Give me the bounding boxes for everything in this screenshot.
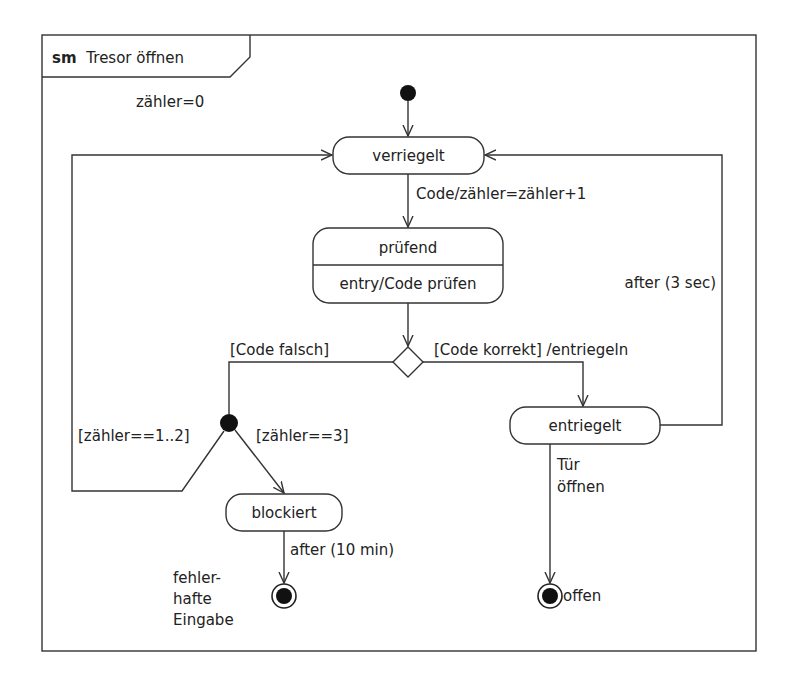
initial-state: zähler=0 — [136, 85, 416, 136]
svg-text:fehler-: fehler- — [173, 569, 221, 587]
transition-blockiert-timeout: after (10 min) — [284, 531, 394, 583]
state-machine-diagram: sm Tresor öffnen zähler=0 verriegelt Cod… — [0, 0, 791, 673]
transition-code-false: [Code falsch] — [229, 341, 393, 414]
svg-text:offen: offen — [563, 587, 601, 605]
svg-text:[zähler==3]: [zähler==3] — [256, 427, 349, 445]
final-state-open: offen — [538, 584, 601, 608]
state-verriegelt[interactable]: verriegelt — [333, 137, 484, 174]
svg-text:[zähler==1..2]: [zähler==1..2] — [78, 427, 190, 445]
svg-text:[Code falsch]: [Code falsch] — [230, 341, 329, 359]
svg-text:Tür: Tür — [556, 456, 581, 474]
svg-text:öffnen: öffnen — [557, 478, 605, 496]
svg-text:prüfend: prüfend — [379, 239, 438, 257]
svg-text:hafte: hafte — [173, 590, 212, 608]
svg-text:Eingabe: Eingabe — [173, 611, 234, 629]
entry-action: entry/Code prüfen — [339, 275, 476, 293]
state-entriegelt[interactable]: entriegelt — [510, 407, 660, 444]
transition-code-entry: Code/zähler=zähler+1 — [408, 174, 586, 227]
transition-open-door: Tür öffnen — [550, 444, 605, 583]
svg-text:after (10 min): after (10 min) — [290, 541, 394, 559]
initial-label: zähler=0 — [136, 93, 204, 111]
state-pruefend[interactable]: prüfend entry/Code prüfen — [313, 228, 503, 303]
svg-text:after (3 sec): after (3 sec) — [624, 274, 716, 292]
transition-block: [zähler==3] — [235, 427, 349, 493]
initial-dot-icon — [400, 85, 416, 101]
svg-text:Code/zähler=zähler+1: Code/zähler=zähler+1 — [416, 185, 586, 203]
state-blockiert[interactable]: blockiert — [226, 494, 342, 531]
svg-text:[Code korrekt] /entriegeln: [Code korrekt] /entriegeln — [434, 341, 628, 359]
final-state-error: fehler- hafte Eingabe — [173, 569, 296, 629]
svg-text:blockiert: blockiert — [251, 504, 316, 522]
choice-diamond-icon — [393, 347, 423, 377]
diagram-frame: sm Tresor öffnen — [42, 35, 756, 651]
svg-text:entriegelt: entriegelt — [549, 417, 622, 435]
junction-dot-icon — [220, 414, 238, 432]
frame-title: sm Tresor öffnen — [52, 49, 184, 67]
transition-code-correct: [Code korrekt] /entriegeln — [423, 341, 628, 406]
svg-text:verriegelt: verriegelt — [372, 147, 444, 165]
